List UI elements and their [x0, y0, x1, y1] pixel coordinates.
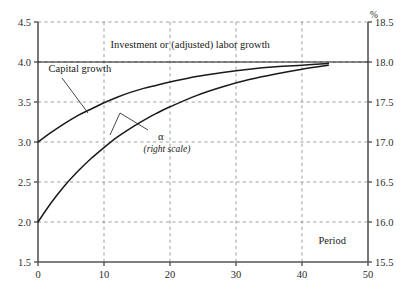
- left-axis-tick-label: 4.5: [18, 17, 31, 28]
- economic-growth-line-chart: 1.52.02.53.03.54.04.5 15.516.016.517.017…: [0, 0, 412, 292]
- investment-label: Investment or (adjusted) labor growth: [111, 39, 271, 51]
- right-axis-tick-label: 17.5: [375, 97, 393, 108]
- capital-growth-label: Capital growth: [49, 63, 112, 74]
- bottom-axis-tick-label: 0: [35, 269, 40, 280]
- percent-unit-label: %: [370, 10, 378, 20]
- chart-container: 1.52.02.53.03.54.04.5 15.516.016.517.017…: [0, 0, 412, 292]
- bottom-axis-tick-label: 40: [297, 269, 308, 280]
- right-axis-tick-label: 16.0: [375, 217, 393, 228]
- bottom-axis-tick-label: 20: [165, 269, 176, 280]
- alpha-right-scale-label: (right scale): [144, 144, 191, 155]
- right-axis-tick-label: 15.5: [375, 257, 393, 268]
- period-label: Period: [319, 235, 347, 246]
- left-axis-tick-label: 1.5: [18, 257, 31, 268]
- right-axis-tick-label: 17.0: [375, 137, 393, 148]
- bottom-axis-tick-label: 10: [99, 269, 110, 280]
- left-axis-tick-label: 2.0: [18, 217, 31, 228]
- bottom-axis-tick-label: 50: [363, 269, 374, 280]
- left-axis-tick-label: 2.5: [18, 177, 31, 188]
- left-axis-tick-label: 3.5: [18, 97, 31, 108]
- left-axis-tick-label: 4.0: [18, 57, 31, 68]
- right-axis-tick-label: 16.5: [375, 177, 393, 188]
- right-axis-tick-label: 18.0: [375, 57, 393, 68]
- bottom-axis-tick-label: 30: [231, 269, 242, 280]
- alpha-label: α: [158, 131, 164, 142]
- left-axis-tick-label: 3.0: [18, 137, 31, 148]
